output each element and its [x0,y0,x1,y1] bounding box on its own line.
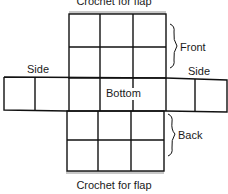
back-label: Back [178,130,202,141]
back-brace-icon [168,114,175,156]
box-pattern-diagram: Crochet for flap Side Side Bottom Front … [0,0,228,194]
front-brace-icon [170,24,177,68]
front-label: Front [180,42,206,53]
side-right-label: Side [188,66,210,77]
side-left-label: Side [27,64,49,75]
bottom-flap-label: Crochet for flap [0,180,228,191]
bottom-label: Bottom [105,88,142,99]
front-panel [69,14,166,78]
top-flap-label: Crochet for flap [0,0,228,7]
back-panel [67,111,164,171]
